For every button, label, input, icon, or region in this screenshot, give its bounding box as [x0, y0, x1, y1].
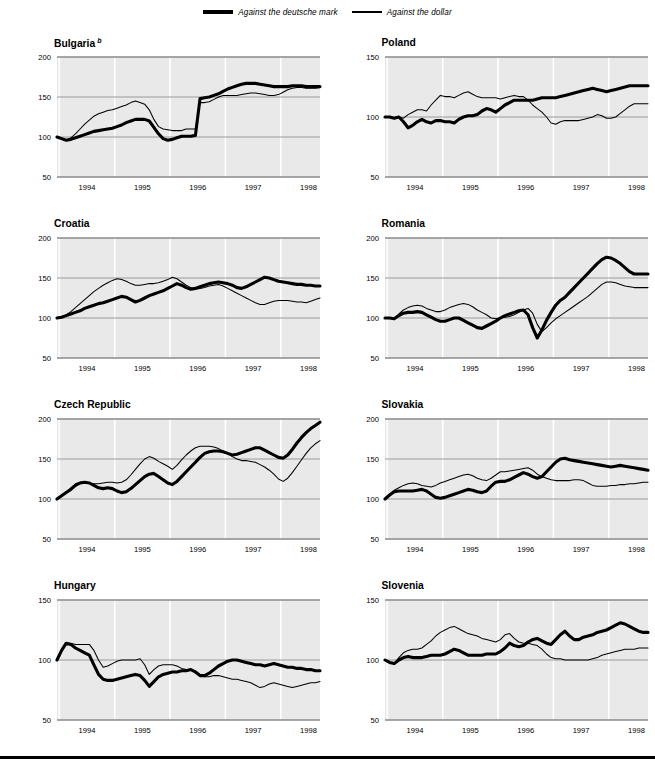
y-axis-tick-label: 100	[366, 495, 379, 504]
y-axis-tick-label: 100	[366, 113, 379, 122]
x-axis-tick-label: 1995	[134, 726, 151, 735]
y-axis-tick-label: 50	[43, 535, 51, 544]
x-axis-tick-label: 1995	[461, 183, 478, 192]
y-axis-tick-label: 200	[366, 415, 379, 424]
y-axis-tick-label: 150	[38, 274, 51, 283]
y-axis-tick-label: 150	[366, 596, 379, 605]
x-axis-tick-label: 1998	[628, 545, 645, 554]
x-axis-tick-label: 1997	[572, 183, 589, 192]
y-axis-tick-label: 100	[38, 656, 51, 665]
y-axis-tick-label: 150	[38, 596, 51, 605]
legend-deutsche-mark: Against the deutsche mark	[203, 8, 337, 17]
x-axis-tick-label: 1996	[517, 364, 534, 373]
chart-panel-romania: Romania5010015020019941995199619971998	[328, 205, 655, 386]
x-axis-tick-label: 1998	[628, 364, 645, 373]
chart-panel-bulgaria: Bulgariab5010015020019941995199619971998	[0, 24, 328, 205]
chart-plot-area: 5010015020019941995199619971998	[328, 386, 655, 567]
y-axis-tick-label: 50	[43, 354, 51, 363]
x-axis-tick-label: 1998	[300, 183, 317, 192]
x-axis-tick-label: 1994	[406, 183, 423, 192]
y-axis-tick-label: 50	[370, 173, 378, 182]
chart-legend: Against the deutsche markAgainst the dol…	[0, 0, 655, 24]
legend-deutsche-mark-swatch-icon	[203, 10, 233, 13]
bottom-rule-divider	[0, 756, 655, 759]
x-axis-tick-label: 1997	[245, 183, 262, 192]
x-axis-tick-label: 1998	[300, 545, 317, 554]
chart-plot-area: 5010015020019941995199619971998	[0, 386, 328, 567]
chart-panel-poland: Poland5010015019941995199619971998	[328, 24, 655, 205]
x-axis-tick-label: 1996	[189, 183, 206, 192]
x-axis-tick-label: 1994	[79, 183, 96, 192]
x-axis-tick-label: 1995	[134, 364, 151, 373]
legend-dollar-label: Against the dollar	[387, 8, 452, 17]
x-axis-tick-label: 1996	[189, 726, 206, 735]
legend-dollar-swatch-icon	[352, 11, 382, 12]
x-axis-tick-label: 1996	[189, 545, 206, 554]
x-axis-tick-label: 1995	[461, 364, 478, 373]
x-axis-tick-label: 1994	[79, 726, 96, 735]
chart-plot-area: 5010015020019941995199619971998	[0, 24, 328, 205]
x-axis-tick-label: 1995	[134, 183, 151, 192]
x-axis-tick-label: 1995	[461, 726, 478, 735]
x-axis-tick-label: 1996	[189, 364, 206, 373]
chart-plot-area: 5010015020019941995199619971998	[0, 205, 328, 386]
x-axis-tick-label: 1994	[406, 726, 423, 735]
x-axis-tick-label: 1997	[572, 545, 589, 554]
y-axis-tick-label: 200	[366, 234, 379, 243]
x-axis-tick-label: 1997	[245, 545, 262, 554]
x-axis-tick-label: 1996	[517, 545, 534, 554]
x-axis-tick-label: 1995	[134, 545, 151, 554]
x-axis-tick-label: 1996	[517, 726, 534, 735]
x-axis-tick-label: 1998	[300, 726, 317, 735]
x-axis-tick-label: 1998	[628, 726, 645, 735]
y-axis-tick-label: 200	[38, 53, 51, 62]
x-axis-tick-label: 1995	[461, 545, 478, 554]
x-axis-tick-label: 1994	[406, 545, 423, 554]
y-axis-tick-label: 100	[38, 495, 51, 504]
y-axis-tick-label: 50	[370, 535, 378, 544]
chart-plot-area: 5010015019941995199619971998	[328, 567, 655, 748]
x-axis-tick-label: 1997	[572, 726, 589, 735]
chart-panel-slovenia: Slovenia5010015019941995199619971998	[328, 567, 655, 748]
x-axis-tick-label: 1997	[245, 364, 262, 373]
x-axis-tick-label: 1994	[406, 364, 423, 373]
y-axis-tick-label: 150	[366, 455, 379, 464]
y-axis-tick-label: 150	[366, 274, 379, 283]
y-axis-tick-label: 50	[43, 716, 51, 725]
chart-plot-area: 5010015020019941995199619971998	[328, 205, 655, 386]
x-axis-tick-label: 1998	[300, 364, 317, 373]
y-axis-tick-label: 100	[366, 656, 379, 665]
y-axis-tick-label: 50	[370, 354, 378, 363]
x-axis-tick-label: 1996	[517, 183, 534, 192]
x-axis-tick-label: 1994	[79, 545, 96, 554]
y-axis-tick-label: 200	[38, 234, 51, 243]
x-axis-tick-label: 1998	[628, 183, 645, 192]
y-axis-tick-label: 100	[366, 314, 379, 323]
chart-panel-czech-republic: Czech Republic50100150200199419951996199…	[0, 386, 328, 567]
y-axis-tick-label: 150	[38, 93, 51, 102]
x-axis-tick-label: 1994	[79, 364, 96, 373]
y-axis-tick-label: 50	[370, 716, 378, 725]
y-axis-tick-label: 150	[366, 53, 379, 62]
x-axis-tick-label: 1997	[245, 726, 262, 735]
y-axis-tick-label: 150	[38, 455, 51, 464]
y-axis-tick-label: 200	[38, 415, 51, 424]
chart-panel-croatia: Croatia5010015020019941995199619971998	[0, 205, 328, 386]
y-axis-tick-label: 100	[38, 133, 51, 142]
y-axis-tick-label: 50	[43, 173, 51, 182]
legend-deutsche-mark-label: Against the deutsche mark	[238, 8, 337, 17]
chart-panel-slovakia: Slovakia5010015020019941995199619971998	[328, 386, 655, 567]
chart-plot-area: 5010015019941995199619971998	[328, 24, 655, 205]
legend-dollar: Against the dollar	[352, 8, 452, 17]
y-axis-tick-label: 100	[38, 314, 51, 323]
chart-plot-area: 5010015019941995199619971998	[0, 567, 328, 748]
chart-panel-hungary: Hungary5010015019941995199619971998	[0, 567, 328, 748]
x-axis-tick-label: 1997	[572, 364, 589, 373]
small-multiples-grid: Bulgariab5010015020019941995199619971998…	[0, 24, 655, 750]
